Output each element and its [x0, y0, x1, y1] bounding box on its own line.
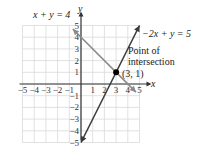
- x-axis-label: x: [150, 78, 156, 89]
- svg-text:−4: −4: [29, 85, 39, 95]
- svg-text:−1: −1: [69, 91, 79, 101]
- svg-text:−5: −5: [69, 138, 79, 148]
- svg-text:5: 5: [137, 85, 142, 95]
- svg-text:1: 1: [90, 85, 95, 95]
- svg-text:−4: −4: [69, 126, 79, 136]
- svg-text:2: 2: [75, 56, 80, 66]
- svg-text:3: 3: [75, 44, 80, 54]
- poi-label-2: intersection: [128, 56, 175, 67]
- svg-text:−3: −3: [41, 85, 51, 95]
- svg-text:−3: −3: [69, 114, 79, 124]
- svg-text:3: 3: [114, 85, 119, 95]
- svg-text:−5: −5: [18, 85, 28, 95]
- svg-text:1: 1: [75, 67, 80, 77]
- coordinate-plane: −5−4−3−2−11234554321−1−2−3−4−5 x + y = 4…: [0, 0, 202, 157]
- line2-label: −2x + y = 5: [142, 28, 191, 39]
- line1-label: x + y = 4: [32, 9, 70, 20]
- svg-text:−2: −2: [69, 102, 79, 112]
- svg-text:5: 5: [75, 21, 80, 31]
- poi-label-1: Point of: [128, 45, 161, 56]
- point-label: (3, 1): [122, 68, 144, 80]
- y-axis-label: y: [77, 3, 83, 14]
- svg-text:−2: −2: [53, 85, 63, 95]
